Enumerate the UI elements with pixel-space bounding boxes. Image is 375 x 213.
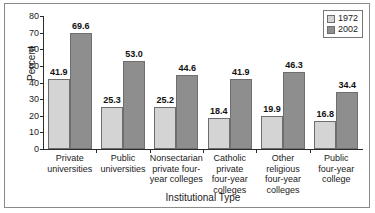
y-axis-tick-label: 50	[13, 62, 39, 71]
legend-item-2002: 2002	[327, 24, 358, 35]
y-axis-tick-mark	[40, 83, 43, 84]
legend-swatch-2002	[327, 26, 335, 34]
bar-1972[interactable]	[314, 121, 336, 149]
legend-label-1972: 1972	[338, 14, 358, 23]
legend-swatch-1972	[327, 15, 335, 23]
y-axis-tick-mark	[40, 66, 43, 67]
y-axis-tick-label: 60	[13, 45, 39, 54]
bar-value-label: 44.6	[170, 64, 204, 73]
bar-1972[interactable]	[101, 107, 123, 149]
y-axis-tick-mark	[40, 99, 43, 100]
bar-2002[interactable]	[283, 72, 305, 149]
legend-label-2002: 2002	[338, 25, 358, 34]
y-axis-tick-label: 70	[13, 29, 39, 38]
legend-item-1972: 1972	[327, 13, 358, 24]
bar-1972[interactable]	[208, 118, 230, 149]
bar-group: 25.244.6	[154, 16, 198, 149]
bar-value-label: 53.0	[117, 50, 151, 59]
x-axis-title: Institutional Type	[43, 192, 363, 203]
y-axis-line	[43, 16, 44, 149]
bar-2002[interactable]	[123, 61, 145, 149]
bar-2002[interactable]	[70, 33, 92, 149]
y-axis-tick-label: 30	[13, 95, 39, 104]
bar-2002[interactable]	[336, 92, 358, 149]
y-axis-tick-mark	[40, 149, 43, 150]
bar-value-label: 41.9	[224, 68, 258, 77]
y-axis-tick-mark	[40, 33, 43, 34]
bar-2002[interactable]	[230, 79, 252, 149]
y-axis-tick-mark	[40, 116, 43, 117]
bar-2002[interactable]	[176, 75, 198, 149]
y-axis-tick-mark	[40, 16, 43, 17]
y-axis-tick-label: 10	[13, 128, 39, 137]
bar-group: 25.353.0	[101, 16, 145, 149]
bar-group: 41.969.6	[48, 16, 92, 149]
bar-group: 18.441.9	[208, 16, 252, 149]
chart-legend: 1972 2002	[323, 10, 363, 38]
y-axis-tick-label: 40	[13, 79, 39, 88]
plot-area: 01020304050607080 41.969.625.353.025.244…	[43, 16, 363, 149]
chart-container: Percent 01020304050607080 41.969.625.353…	[4, 3, 370, 208]
y-axis-tick-mark	[40, 132, 43, 133]
bar-1972[interactable]	[154, 107, 176, 149]
x-axis-category-label: Publicfour-yearcollege	[305, 153, 367, 185]
y-axis-tick-mark	[40, 49, 43, 50]
y-axis-tick-label: 0	[13, 145, 39, 154]
bar-group: 19.946.3	[261, 16, 305, 149]
y-axis-tick-label: 80	[13, 12, 39, 21]
bar-value-label: 69.6	[64, 22, 98, 31]
bar-value-label: 46.3	[277, 61, 311, 70]
bar-1972[interactable]	[48, 79, 70, 149]
y-axis-tick-label: 20	[13, 112, 39, 121]
bar-1972[interactable]	[261, 116, 283, 149]
bar-value-label: 34.4	[330, 81, 364, 90]
